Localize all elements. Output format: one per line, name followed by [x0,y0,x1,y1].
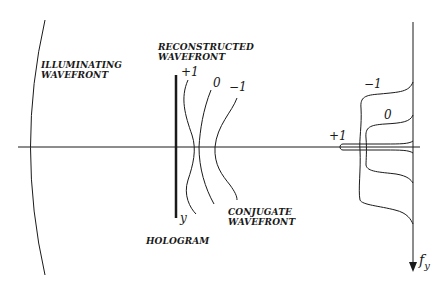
spectrum-order-plus-one-label: +1 [329,130,347,142]
wavefront-order-minus-one-label: −1 [229,81,247,93]
spectrum-zero-order [366,115,413,183]
wavefront-order-plus-one-label: +1 [181,66,199,78]
frequency-axis-subscript: y [424,260,430,271]
spectrum-order-minus-one-label: −1 [364,78,382,90]
hologram-reconstruction-diagram: ILLUMINATING WAVEFRONT RECONSTRUCTED WAV… [0,0,446,289]
frequency-axis-arrowhead [409,262,417,272]
illuminating-wavefront-label: ILLUMINATING WAVEFRONT [41,60,122,80]
wavefront-order-zero-label: 0 [213,77,221,89]
conjugate-wavefront-label: CONJUGATE WAVEFRONT [228,207,295,227]
reconstructed-wavefront-label: RECONSTRUCTED WAVEFRONT [158,42,254,62]
spectrum-order-zero-label: 0 [384,109,392,121]
frequency-axis-label: fy [419,252,430,271]
illuminating-label-line2: WAVEFRONT [41,70,122,80]
conjugate-label-line1: CONJUGATE [228,207,295,217]
wavefront-minus-one [215,98,237,200]
hologram-y-axis-label: y [180,212,187,224]
spectrum-minus-one [359,82,413,224]
hologram-label: HOLOGRAM [146,236,209,246]
illuminating-label-line1: ILLUMINATING [41,60,122,70]
reconstructed-label-line2: WAVEFRONT [158,52,254,62]
conjugate-label-line2: WAVEFRONT [228,217,295,227]
reconstructed-label-line1: RECONSTRUCTED [158,42,254,52]
